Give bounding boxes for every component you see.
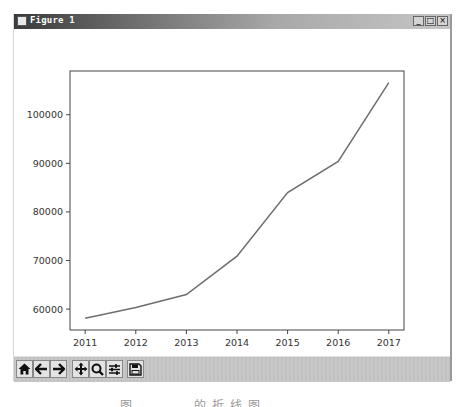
x-tick-label: 2017 — [377, 337, 401, 348]
x-tick-label: 2016 — [326, 337, 350, 348]
x-tick-label: 2013 — [174, 337, 198, 348]
line-chart: 6000070000800009000010000020112012201320… — [14, 29, 450, 356]
pan-button[interactable] — [72, 360, 89, 378]
home-icon — [18, 363, 31, 375]
sliders-icon — [108, 363, 121, 376]
x-tick-label: 2012 — [124, 337, 148, 348]
x-tick-label: 2014 — [225, 337, 249, 348]
zoom-button[interactable] — [89, 360, 106, 378]
back-button[interactable] — [33, 360, 50, 378]
figure-caption: 图 …… 的折线图 — [120, 396, 380, 407]
forward-button[interactable] — [50, 360, 67, 378]
axes-frame — [70, 71, 404, 330]
maximize-button[interactable]: □ — [425, 16, 436, 26]
minimize-button[interactable]: _ — [413, 16, 424, 26]
home-button[interactable] — [16, 360, 33, 378]
arrow-left-icon — [35, 363, 48, 375]
window-controls: _ □ × — [413, 16, 448, 26]
title-bar[interactable]: Figure 1 _ □ × — [14, 14, 450, 29]
y-tick-label: 60000 — [33, 304, 63, 315]
plot-canvas[interactable]: 6000070000800009000010000020112012201320… — [14, 29, 450, 356]
navigation-toolbar — [14, 356, 450, 382]
arrow-right-icon — [52, 363, 65, 375]
y-tick-label: 90000 — [33, 158, 63, 169]
move-icon — [74, 362, 88, 376]
figure-window: Figure 1 _ □ × 6000070000800009000010000… — [13, 14, 452, 381]
data-line — [85, 83, 389, 319]
y-tick-label: 100000 — [27, 109, 63, 120]
x-tick-label: 2015 — [276, 337, 300, 348]
x-tick-label: 2011 — [73, 337, 97, 348]
close-button[interactable]: × — [437, 16, 448, 26]
y-tick-label: 80000 — [33, 206, 63, 217]
window-title: Figure 1 — [30, 15, 75, 25]
magnifier-icon — [91, 363, 104, 376]
floppy-disk-icon — [129, 363, 142, 376]
save-button[interactable] — [127, 360, 144, 378]
app-icon — [17, 16, 27, 26]
y-tick-label: 70000 — [33, 255, 63, 266]
configure-subplots-button[interactable] — [106, 360, 123, 378]
